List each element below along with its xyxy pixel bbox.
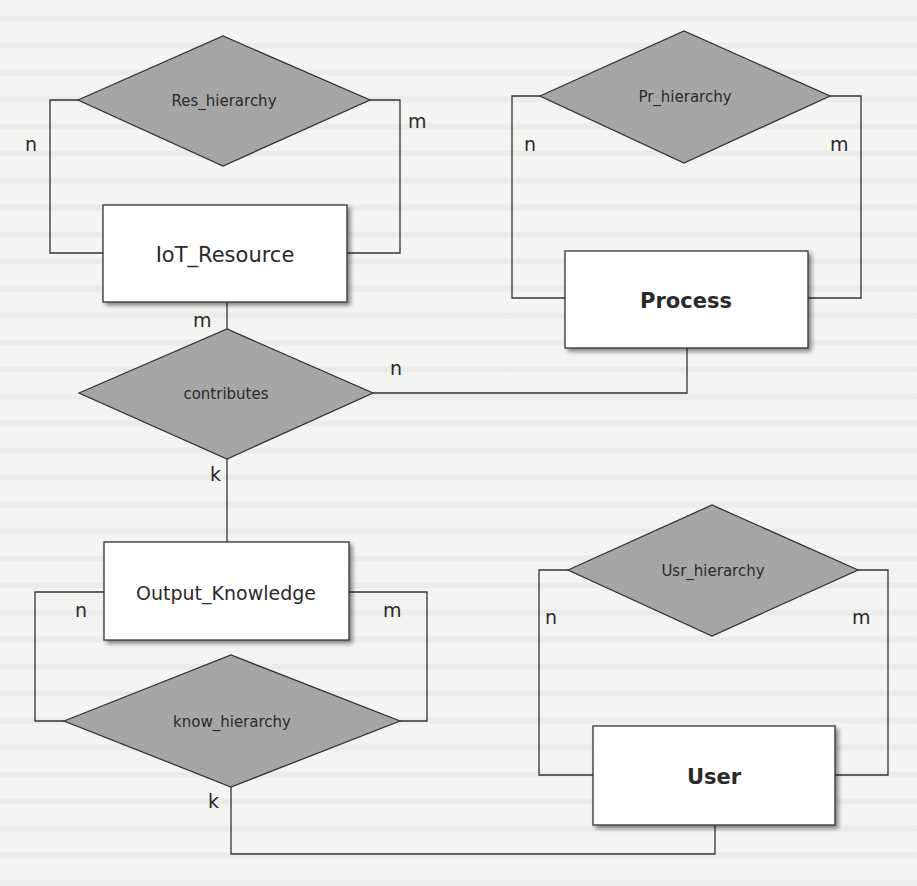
entity-label: User — [687, 765, 742, 789]
cardinality-usr-m: m — [852, 606, 871, 628]
relationship-know-hierarchy[interactable]: know_hierarchy — [64, 655, 400, 787]
cardinality-res-m: m — [408, 110, 427, 132]
entity-label: IoT_Resource — [156, 243, 295, 268]
entity-process[interactable]: Process — [565, 251, 808, 348]
er-diagram: Res_hierarchy Pr_hierarchy contributes k… — [0, 0, 917, 886]
relationship-usr-hierarchy[interactable]: Usr_hierarchy — [568, 505, 858, 636]
relationship-label: know_hierarchy — [173, 713, 291, 732]
relationship-label: Pr_hierarchy — [638, 88, 731, 107]
relationship-label: Usr_hierarchy — [661, 562, 764, 581]
entity-user[interactable]: User — [593, 726, 835, 825]
cardinality-contrib-m: m — [193, 309, 212, 331]
pr-hierarchy-m-line — [808, 96, 861, 298]
entity-label: Process — [640, 289, 732, 313]
pr-hierarchy-n-line — [512, 96, 565, 298]
entity-output-knowledge[interactable]: Output_Knowledge — [104, 542, 349, 640]
cardinality-res-n: n — [25, 133, 37, 155]
cardinality-pr-m: m — [830, 133, 849, 155]
diagram-svg: Res_hierarchy Pr_hierarchy contributes k… — [0, 0, 917, 886]
cardinality-contrib-k: k — [210, 463, 221, 485]
relationship-label: contributes — [183, 385, 268, 403]
entity-iot-resource[interactable]: IoT_Resource — [103, 205, 347, 302]
contributes-process-line — [373, 348, 687, 393]
relationship-contributes[interactable]: contributes — [79, 329, 373, 459]
cardinality-contrib-n: n — [390, 357, 402, 379]
entity-label: Output_Knowledge — [136, 582, 316, 605]
res-hierarchy-n-line — [50, 100, 103, 253]
know-hierarchy-n-line — [35, 592, 104, 721]
cardinality-know-k: k — [208, 790, 219, 812]
cardinality-know-m: m — [383, 599, 402, 621]
usr-hierarchy-m-line — [835, 570, 888, 775]
cardinality-usr-n: n — [545, 606, 557, 628]
relationship-res-hierarchy[interactable]: Res_hierarchy — [78, 36, 370, 166]
usr-hierarchy-n-line — [539, 570, 593, 775]
res-hierarchy-m-line — [347, 100, 400, 253]
relationship-label: Res_hierarchy — [171, 92, 276, 111]
cardinality-pr-n: n — [524, 133, 536, 155]
relationship-pr-hierarchy[interactable]: Pr_hierarchy — [540, 31, 830, 163]
cardinality-know-n: n — [75, 599, 87, 621]
